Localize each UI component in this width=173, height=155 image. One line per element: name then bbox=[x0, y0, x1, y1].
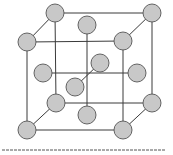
atom-bottom-face-center bbox=[78, 106, 96, 124]
atom-back-bottom-left bbox=[47, 94, 65, 112]
atom-back-top-right bbox=[143, 4, 161, 22]
atom-top-face-center bbox=[78, 16, 96, 34]
atom-front-bottom-right bbox=[114, 121, 132, 139]
atom-front-top-left bbox=[18, 33, 36, 51]
atom-left-face-center bbox=[34, 64, 52, 82]
atom-back-face-center bbox=[91, 54, 109, 72]
atom-front-top-right bbox=[114, 32, 132, 50]
atom-back-bottom-right bbox=[143, 94, 161, 112]
atom-front-bottom-left bbox=[18, 121, 36, 139]
atom-front-face-center bbox=[66, 78, 84, 96]
atom-right-face-center bbox=[128, 64, 146, 82]
atom-back-top-left bbox=[46, 4, 64, 22]
fcc-lattice-diagram bbox=[0, 0, 173, 155]
